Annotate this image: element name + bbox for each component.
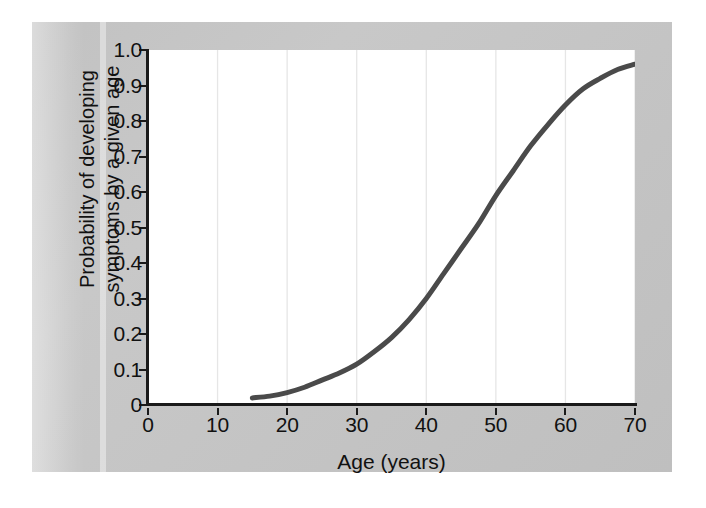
- y-tick-label: 0: [96, 394, 142, 415]
- x-tick-label: 30: [327, 414, 387, 435]
- plot-area: [148, 50, 635, 405]
- x-tick-labels: 010203040506070: [32, 414, 672, 444]
- x-tick-label: 10: [188, 414, 248, 435]
- y-axis-line: [146, 49, 149, 406]
- x-tick-label: 20: [257, 414, 317, 435]
- x-axis-title: Age (years): [148, 450, 635, 474]
- y-axis-title: Probability of developing symptoms by a …: [75, 19, 125, 339]
- figure-root: 1.00.90.80.70.60.50.40.30.20.10 01020304…: [0, 0, 706, 508]
- x-tick-label: 50: [466, 414, 526, 435]
- x-axis-line: [146, 403, 637, 406]
- gridlines-group: [218, 50, 635, 405]
- plot-svg: [148, 50, 635, 405]
- x-tick-label: 60: [535, 414, 595, 435]
- figure-panel: 1.00.90.80.70.60.50.40.30.20.10 01020304…: [32, 22, 672, 472]
- data-curve-line: [252, 64, 635, 398]
- x-tick-label: 70: [605, 414, 665, 435]
- y-tick-label: 0.1: [96, 359, 142, 380]
- x-tick-label: 0: [118, 414, 178, 435]
- y-axis-title-line-1: Probability of developing: [75, 19, 100, 339]
- x-tick-label: 40: [396, 414, 456, 435]
- y-axis-title-line-2: symptoms by a given age: [100, 19, 125, 339]
